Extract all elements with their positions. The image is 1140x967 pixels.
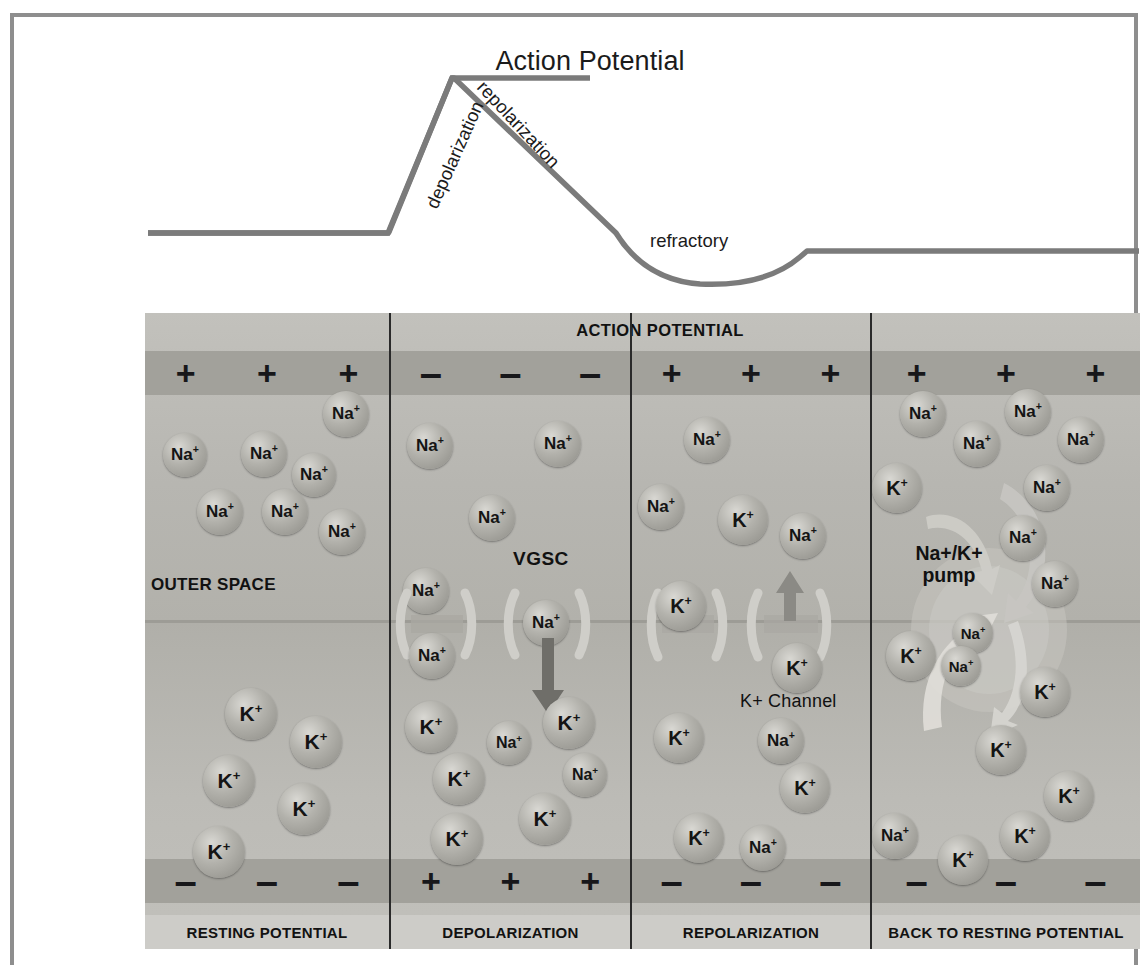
refractory-label: refractory bbox=[650, 230, 729, 251]
ion-potassium: K+ bbox=[405, 701, 457, 753]
membrane-diagram: ACTION POTENTIAL + + + – – – + + + + + +… bbox=[145, 313, 1140, 915]
ion-sodium: Na+ bbox=[197, 489, 243, 535]
ion-sodium: Na+ bbox=[535, 421, 581, 467]
ion-potassium: K+ bbox=[519, 793, 571, 845]
ion-sodium: Na+ bbox=[1032, 561, 1078, 607]
panel-resting-potential: Na+ Na+ Na+ Na+ Na+ Na+ Na+ OUTER SPACE … bbox=[145, 313, 389, 915]
ion-potassium: K+ bbox=[886, 631, 936, 681]
ion-sodium: Na+ bbox=[941, 646, 981, 686]
phase-caption-bar: RESTING POTENTIAL DEPOLARIZATION REPOLAR… bbox=[145, 915, 1140, 949]
panel-divider-3 bbox=[870, 313, 872, 915]
panel-depolarization: Na+ Na+ Na+ Na+ VGSC Na+ Na+ K+ K+ Na+ K… bbox=[391, 313, 630, 915]
ion-potassium: K+ bbox=[203, 755, 255, 807]
ion-sodium: Na+ bbox=[407, 423, 453, 469]
ion-sodium: Na+ bbox=[740, 825, 786, 871]
ion-sodium: Na+ bbox=[638, 484, 684, 530]
ion-sodium: Na+ bbox=[469, 495, 515, 541]
ion-potassium: K+ bbox=[674, 813, 724, 863]
potassium-efflux-arrow-icon bbox=[772, 571, 808, 623]
ion-sodium: Na+ bbox=[563, 753, 607, 797]
depolarization-label: depolarization bbox=[421, 98, 487, 212]
ion-sodium: Na+ bbox=[1024, 465, 1070, 511]
caption-repolarization: REPOLARIZATION bbox=[632, 915, 870, 949]
ion-sodium: Na+ bbox=[1058, 417, 1104, 463]
ion-potassium: K+ bbox=[193, 826, 245, 878]
ion-potassium: K+ bbox=[654, 713, 704, 763]
ion-sodium: Na+ bbox=[319, 509, 365, 555]
ion-potassium: K+ bbox=[1044, 771, 1094, 821]
ion-sodium: Na+ bbox=[872, 813, 918, 859]
ion-sodium: Na+ bbox=[780, 513, 826, 559]
pump-label-line-1: Na+/K+ bbox=[890, 543, 1008, 565]
repolarization-label: repolarization bbox=[473, 76, 564, 172]
caption-divider-1 bbox=[389, 914, 391, 949]
ion-potassium: K+ bbox=[656, 581, 706, 631]
trace-path bbox=[148, 78, 1139, 284]
action-potential-trace-svg: depolarization repolarization refractory bbox=[140, 28, 1139, 310]
ion-potassium: K+ bbox=[872, 463, 922, 513]
pump-label-line-2: pump bbox=[890, 565, 1008, 587]
ion-sodium: Na+ bbox=[409, 633, 455, 679]
panel-divider-2 bbox=[630, 313, 632, 915]
ion-potassium: K+ bbox=[780, 763, 830, 813]
panel-repolarization: Na+ Na+ K+ Na+ K+ K+ K+ Channel K+ Na+ K… bbox=[632, 313, 870, 915]
k-channel-label: K+ Channel bbox=[740, 691, 837, 712]
ion-sodium: Na+ bbox=[262, 489, 308, 535]
ion-sodium: Na+ bbox=[487, 721, 531, 765]
ion-sodium: Na+ bbox=[900, 391, 946, 437]
sodium-potassium-pump-label: Na+/K+ pump bbox=[890, 543, 1008, 587]
panel-back-to-resting-potential: Na+ Na+ Na+ Na+ Na+ Na+ Na+ K+ Na+ Na+ K… bbox=[872, 313, 1140, 915]
action-potential-graph: Action Potential depolarization repolari… bbox=[140, 28, 1139, 310]
ion-potassium: K+ bbox=[772, 643, 822, 693]
ion-sodium: Na+ bbox=[954, 421, 1000, 467]
outer-space-label: OUTER SPACE bbox=[151, 575, 276, 595]
ion-potassium: K+ bbox=[431, 813, 483, 865]
ion-sodium: Na+ bbox=[758, 718, 804, 764]
ion-sodium: Na+ bbox=[1005, 389, 1051, 435]
caption-depolarization: DEPOLARIZATION bbox=[391, 915, 630, 949]
ion-potassium: K+ bbox=[976, 725, 1026, 775]
ion-potassium: K+ bbox=[718, 495, 768, 545]
caption-divider-3 bbox=[870, 914, 872, 949]
ion-potassium: K+ bbox=[290, 716, 342, 768]
ion-sodium: Na+ bbox=[684, 417, 730, 463]
panel-divider-1 bbox=[389, 313, 391, 915]
ion-sodium: Na+ bbox=[163, 433, 207, 477]
trace-rising-segment bbox=[148, 78, 590, 233]
ion-potassium: K+ bbox=[543, 697, 595, 749]
ion-potassium: K+ bbox=[433, 753, 485, 805]
ion-sodium: Na+ bbox=[323, 391, 369, 437]
vgsc-label: VGSC bbox=[513, 548, 569, 570]
caption-resting-potential: RESTING POTENTIAL bbox=[145, 915, 389, 949]
ion-potassium: K+ bbox=[225, 688, 277, 740]
ion-sodium: Na+ bbox=[292, 453, 336, 497]
caption-divider-2 bbox=[630, 914, 632, 949]
ion-sodium: Na+ bbox=[241, 431, 287, 477]
ion-potassium: K+ bbox=[938, 835, 988, 885]
ion-potassium: K+ bbox=[278, 783, 330, 835]
caption-back-to-resting-potential: BACK TO RESTING POTENTIAL bbox=[872, 915, 1140, 949]
ion-potassium: K+ bbox=[1020, 667, 1070, 717]
ion-potassium: K+ bbox=[1000, 811, 1050, 861]
